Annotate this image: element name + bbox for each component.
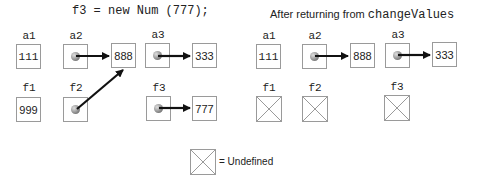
object-value-777: 777 — [195, 103, 213, 115]
var-box-a2-after — [302, 44, 327, 69]
reference-dot-icon — [71, 105, 80, 114]
object-box-888-after: 888 — [350, 43, 375, 68]
var-box-a1-after: 111 — [256, 44, 281, 69]
right-panel-title: After returning from changeValues — [270, 4, 454, 22]
reference-dot-icon — [153, 51, 162, 60]
undefined-box-f1 — [256, 96, 282, 122]
label-f1-after: f1 — [256, 82, 282, 94]
title-code: changeValues — [368, 8, 454, 22]
label-f3-after: f3 — [384, 81, 410, 93]
label-a1-after: a1 — [256, 30, 282, 42]
object-box-333-after: 333 — [432, 42, 457, 67]
object-box-333: 333 — [192, 43, 217, 68]
var-box-a2 — [63, 44, 88, 69]
crossed-box-icon — [384, 95, 410, 121]
title-prefix: After returning from — [270, 8, 368, 20]
crossed-box-icon — [190, 149, 216, 175]
value-a1: 111 — [19, 51, 39, 63]
var-box-f3 — [146, 96, 171, 121]
label-f2: f2 — [63, 82, 89, 94]
label-a2: a2 — [63, 30, 89, 42]
label-a2-after: a2 — [302, 30, 328, 42]
reference-dot-icon — [71, 52, 80, 61]
var-box-f1: 999 — [16, 97, 41, 122]
object-value-888: 888 — [114, 50, 132, 62]
legend-undefined-box — [190, 149, 216, 175]
var-box-a3 — [145, 43, 170, 68]
legend-label: = Undefined — [219, 156, 273, 167]
label-f2-after: f2 — [302, 82, 328, 94]
value-f1: 999 — [19, 104, 37, 116]
undefined-box-f3 — [384, 95, 410, 121]
crossed-box-icon — [256, 96, 282, 122]
undefined-box-f2 — [302, 96, 328, 122]
crossed-box-icon — [302, 96, 328, 122]
label-a3-after: a3 — [385, 29, 411, 41]
var-box-f2 — [63, 97, 88, 122]
object-box-777: 777 — [192, 96, 217, 121]
object-value-333-after: 333 — [435, 49, 453, 61]
reference-dot-icon — [310, 52, 319, 61]
label-f1: f1 — [16, 82, 42, 94]
label-f3: f3 — [146, 82, 172, 94]
object-value-888-after: 888 — [353, 50, 371, 62]
var-box-a3-after — [385, 43, 410, 68]
var-box-a1: 111 — [16, 44, 41, 69]
label-a1: a1 — [16, 30, 42, 42]
value-a1-after: 111 — [259, 51, 279, 63]
reference-dot-icon — [393, 51, 402, 60]
reference-dot-icon — [154, 104, 163, 113]
object-value-333: 333 — [195, 50, 213, 62]
label-a3: a3 — [145, 29, 171, 41]
left-panel-title: f3 = new Num (777); — [72, 4, 209, 18]
object-box-888: 888 — [111, 43, 136, 68]
